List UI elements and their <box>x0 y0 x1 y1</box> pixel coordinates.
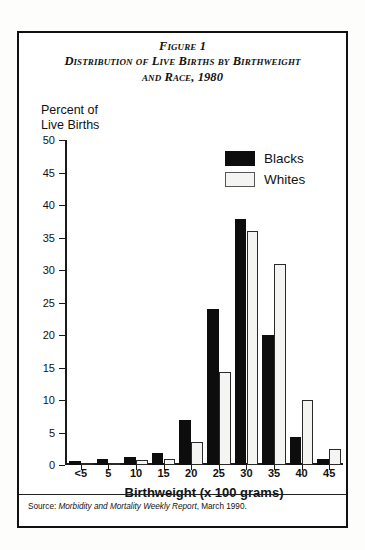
bar-whites-25 <box>219 372 231 465</box>
bar-whites-20 <box>191 442 203 465</box>
bar-group <box>67 140 95 465</box>
x-tick-label: 5 <box>105 467 111 479</box>
bar-whites-10 <box>136 460 148 465</box>
y-tick <box>59 238 65 239</box>
y-tick-label: 20 <box>31 329 55 341</box>
y-tick-label: 0 <box>31 459 55 471</box>
legend-item-whites: Whites <box>225 172 305 187</box>
x-tick-label: 10 <box>130 467 142 479</box>
legend-item-blacks: Blacks <box>225 151 305 166</box>
bar-whites-35 <box>274 264 286 466</box>
bar-group <box>150 140 178 465</box>
x-tick-label: 35 <box>268 467 280 479</box>
bar-blacks-45 <box>317 459 329 466</box>
bar-blacks-30 <box>235 219 247 465</box>
x-tick-label: 40 <box>295 467 307 479</box>
x-tick-label: 20 <box>185 467 197 479</box>
y-tick <box>59 303 65 304</box>
bar-whites-30 <box>247 231 259 465</box>
y-tick-label: 5 <box>31 427 55 439</box>
y-tick-label: 35 <box>31 232 55 244</box>
y-tick-label: 45 <box>31 167 55 179</box>
bar-whites-lt5 <box>81 463 93 466</box>
y-tick <box>59 400 65 401</box>
bar-blacks-15 <box>152 453 164 465</box>
bar-blacks-5 <box>97 459 109 466</box>
y-tick <box>59 173 65 174</box>
y-tick-label: 25 <box>31 297 55 309</box>
y-tick <box>59 433 65 434</box>
y-tick <box>59 335 65 336</box>
x-tick-label: 45 <box>323 467 335 479</box>
source-publication: Morbidity and Mortality Weekly Report <box>59 502 197 511</box>
y-tick <box>59 140 65 141</box>
bar-blacks-35 <box>262 335 274 465</box>
legend-swatch-whites <box>225 172 255 187</box>
y-tick <box>59 368 65 369</box>
y-tick <box>59 465 65 466</box>
x-tick-label: <5 <box>75 467 88 479</box>
legend-swatch-blacks <box>225 151 255 166</box>
chart-legend: Blacks Whites <box>225 151 305 193</box>
bar-group <box>315 140 343 465</box>
x-axis-label: Birthweight (x 100 grams) <box>65 485 343 500</box>
bar-blacks-25 <box>207 309 219 465</box>
y-tick-label: 50 <box>31 134 55 146</box>
legend-label-whites: Whites <box>264 172 305 187</box>
source-suffix: , March 1990. <box>197 502 247 511</box>
plot-area: 05101520253035404550 <551015202530354045… <box>19 33 346 526</box>
figure-page: Figure 1 Distribution of Live Births by … <box>0 0 365 550</box>
bar-whites-5 <box>109 463 121 466</box>
x-tick-label: 15 <box>157 467 169 479</box>
source-divider <box>19 494 346 495</box>
y-tick-label: 10 <box>31 394 55 406</box>
bar-group <box>122 140 150 465</box>
x-tick-label: 25 <box>213 467 225 479</box>
bar-blacks-40 <box>290 437 302 465</box>
source-note: Source: Morbidity and Mortality Weekly R… <box>28 502 247 511</box>
bar-blacks-10 <box>124 457 136 465</box>
bar-group <box>95 140 123 465</box>
bar-whites-40 <box>302 400 314 465</box>
y-tick-label: 30 <box>31 264 55 276</box>
y-tick-label: 15 <box>31 362 55 374</box>
x-tick-label: 30 <box>240 467 252 479</box>
bar-whites-45 <box>329 449 341 465</box>
bar-whites-15 <box>164 459 176 466</box>
bar-blacks-lt5 <box>69 461 81 465</box>
y-tick <box>59 270 65 271</box>
bar-blacks-20 <box>179 420 191 466</box>
source-prefix: Source: <box>28 502 59 511</box>
legend-label-blacks: Blacks <box>264 151 304 166</box>
figure-frame: Figure 1 Distribution of Live Births by … <box>17 31 348 528</box>
y-tick-label: 40 <box>31 199 55 211</box>
y-tick <box>59 205 65 206</box>
bar-group <box>177 140 205 465</box>
